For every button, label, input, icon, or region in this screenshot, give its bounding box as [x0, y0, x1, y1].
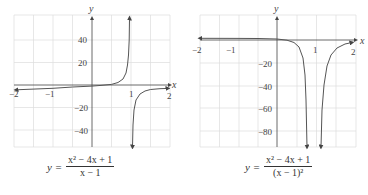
right-formula-lhs: y = — [245, 161, 260, 173]
left-formula-lhs: y = — [47, 161, 62, 173]
right-xtick: −1 — [226, 45, 236, 55]
left-ytick: 20 — [78, 58, 88, 68]
right-ytick: −40 — [258, 82, 273, 92]
left-x-label: x — [171, 79, 177, 90]
right-formula-fraction: x² − 4x + 1 (x − 1)² — [264, 154, 312, 179]
right-formula-denominator: (x − 1)² — [271, 167, 305, 179]
right-xtick: −2 — [192, 45, 202, 55]
left-formula-numerator: x² − 4x + 1 — [66, 154, 114, 167]
left-graph: y x −2 −1 1 2 40 20 −20 −40 — [9, 3, 177, 147]
left-formula-fraction: x² − 4x + 1 x − 1 — [66, 154, 114, 179]
left-formula-denominator: x − 1 — [78, 167, 103, 179]
right-ytick: −80 — [258, 127, 273, 137]
left-ytick: −40 — [74, 126, 89, 136]
left-xtick: 1 — [129, 89, 134, 99]
right-x-label: x — [359, 35, 365, 46]
left-formula: y = x² − 4x + 1 x − 1 — [47, 154, 114, 179]
right-graph: y x −2 −1 1 2 −20 −40 −60 −80 — [192, 3, 365, 147]
right-xtick: 2 — [351, 47, 356, 57]
right-xtick: 1 — [313, 45, 318, 55]
left-ytick: 40 — [78, 35, 88, 45]
right-ytick: −60 — [258, 104, 273, 114]
left-ytick: −20 — [74, 103, 89, 113]
right-formula-numerator: x² − 4x + 1 — [264, 154, 312, 167]
right-ytick: −20 — [258, 59, 273, 69]
left-xtick: 2 — [167, 91, 172, 101]
right-grid — [200, 15, 356, 147]
right-formula: y = x² − 4x + 1 (x − 1)² — [245, 154, 312, 179]
left-xtick: −2 — [9, 89, 19, 99]
left-xtick: −1 — [45, 89, 55, 99]
left-y-label: y — [88, 3, 94, 14]
right-y-label: y — [273, 3, 279, 14]
